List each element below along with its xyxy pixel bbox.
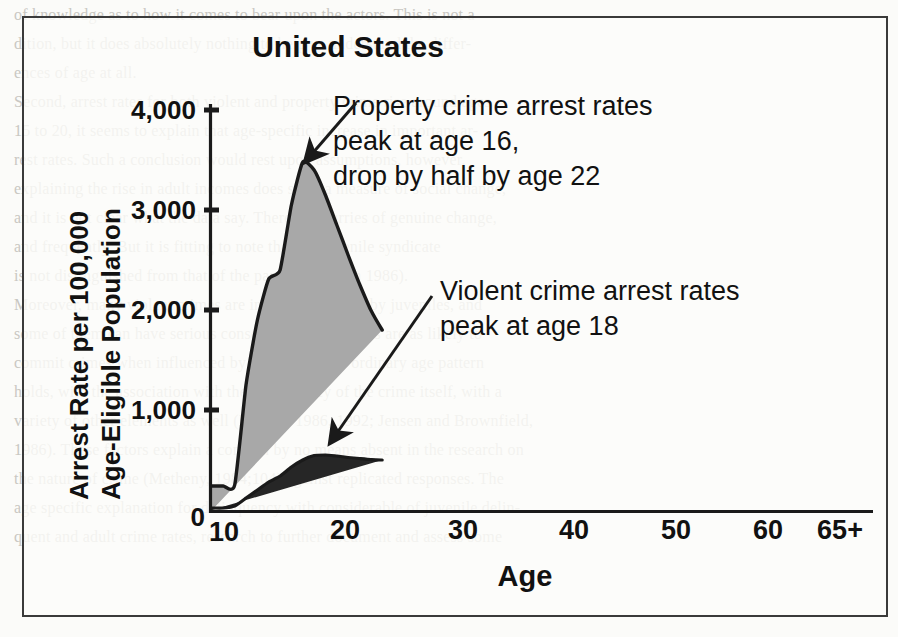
x-tick-label-60: 60 (753, 515, 783, 545)
y-tick-label-2000: 2,000 (131, 295, 196, 325)
x-tick-label-50: 50 (661, 515, 691, 545)
x-tick-label-10: 10 (209, 517, 239, 547)
y-axis-title: Arrest Rate per 100,000 Age-Eligible Pop… (64, 208, 126, 500)
y-tick-label-3000: 3,000 (131, 195, 196, 225)
annotation-property-line2: peak at age 16, (333, 126, 519, 156)
x-tick-label-40: 40 (559, 515, 589, 545)
x-tick-label-30: 30 (448, 515, 478, 545)
arrest-rate-by-age-chart: 4,000 3,000 2,000 1,000 0 10 20 30 40 50… (0, 0, 898, 637)
y-axis-title-line1: Arrest Rate per 100,000 (64, 211, 94, 500)
x-axis-title: Age (498, 560, 553, 592)
y-tick-label-1000: 1,000 (131, 395, 196, 425)
annotation-violent-crime: Violent crime arrest rates peak at age 1… (330, 276, 740, 443)
x-tick-label-20: 20 (330, 515, 360, 545)
annotation-violent-line1: Violent crime arrest rates (440, 276, 740, 306)
chart-title: United States (252, 30, 444, 63)
y-axis-title-line2: Age-Eligible Population (96, 208, 126, 500)
annotation-property-line3: drop by half by age 22 (333, 161, 600, 191)
annotation-violent-line2: peak at age 18 (440, 311, 619, 341)
y-tick-label-0: 0 (191, 502, 205, 532)
y-tick-label-4000: 4,000 (131, 95, 196, 125)
x-tick-label-65plus: 65+ (817, 515, 863, 545)
annotation-property-crime: Property crime arrest rates peak at age … (305, 91, 653, 191)
annotation-property-line1: Property crime arrest rates (333, 91, 653, 121)
